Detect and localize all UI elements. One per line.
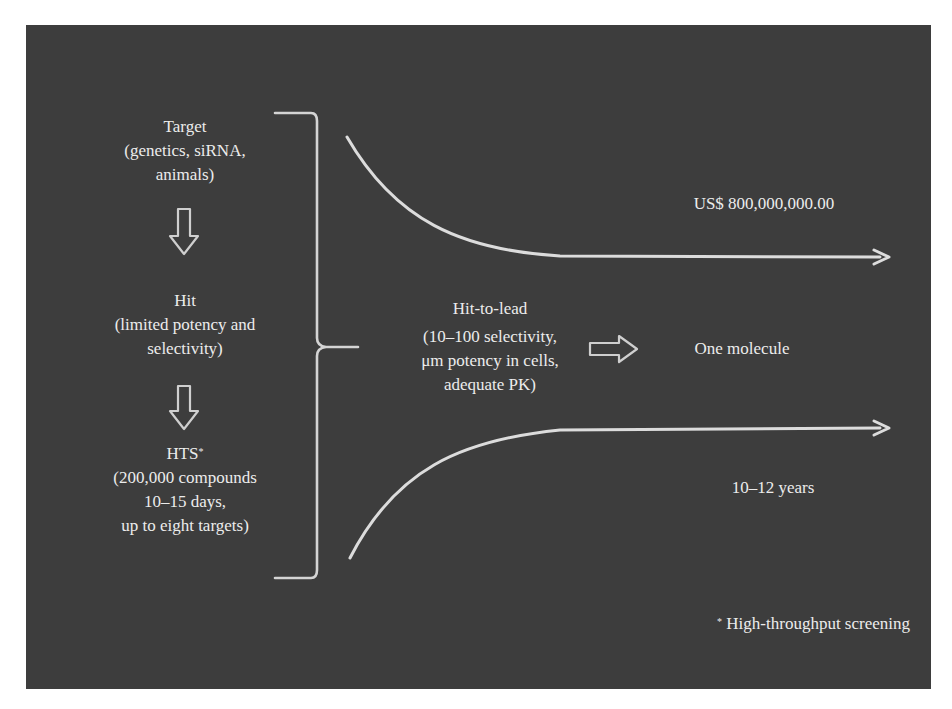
hit-to-lead-title: Hit-to-lead — [375, 297, 605, 321]
down-arrow-icon — [170, 386, 198, 429]
time-label: 10–12 years — [718, 476, 828, 500]
stage-hit: Hit (limited potency and selectivity) — [75, 289, 295, 361]
cost-label: US$ 800,000,000.00 — [684, 192, 844, 216]
stage-hts: HTS* (200,000 compounds 10–15 days, up t… — [75, 442, 295, 538]
stage-detail: (200,000 compounds — [75, 466, 295, 490]
stage-target: Target (genetics, siRNA, animals) — [75, 115, 295, 187]
stage-detail: selectivity) — [75, 337, 295, 361]
stage-detail: 10–15 days, — [75, 490, 295, 514]
hit-to-lead-detail: μm potency in cells, — [375, 349, 605, 373]
footnote-marker: * — [717, 616, 722, 627]
stage-detail: up to eight targets) — [75, 514, 295, 538]
stage-title: Hit — [75, 289, 295, 313]
hit-to-lead-detail: adequate PK) — [375, 373, 605, 397]
hit-to-lead-block: Hit-to-lead (10–100 selectivity, μm pote… — [375, 297, 605, 397]
stage-title: Target — [75, 115, 295, 139]
stage-detail: animals) — [75, 163, 295, 187]
stage-detail: (limited potency and — [75, 313, 295, 337]
hit-to-lead-detail: (10–100 selectivity, — [375, 325, 605, 349]
result-label: One molecule — [652, 337, 832, 361]
footnote-marker: * — [199, 446, 204, 457]
down-arrow-icon — [170, 209, 198, 254]
stage-detail: (genetics, siRNA, — [75, 139, 295, 163]
footnote-text: High-throughput screening — [726, 614, 910, 633]
footnote: * High-throughput screening — [650, 612, 910, 636]
stage-title: HTS* — [75, 442, 295, 466]
